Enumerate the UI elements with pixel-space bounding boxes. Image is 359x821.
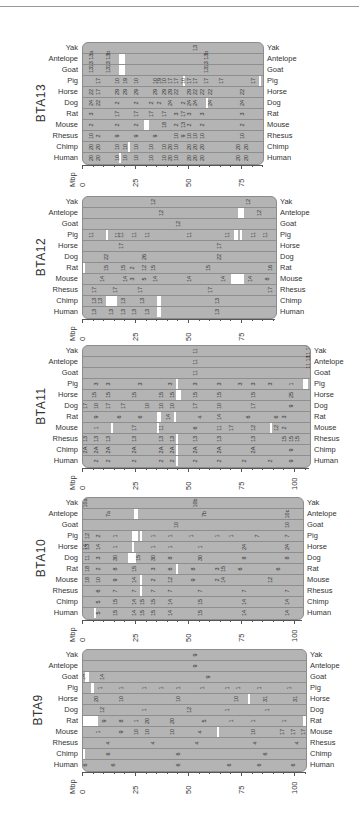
homolog-chromosome-label: 1	[222, 683, 232, 693]
homolog-chromosome-label: 1	[156, 683, 166, 693]
species-label-left: Rat	[0, 411, 78, 422]
homolog-chromosome-label: 17	[201, 76, 211, 86]
axis-tick	[262, 319, 263, 321]
homolog-chromosome-label: 1	[131, 716, 141, 726]
homolog-chromosome-label: 17	[129, 423, 139, 433]
homolog-chromosome-label: 15	[110, 608, 120, 618]
homolog-chromosome-label: 10	[93, 575, 103, 585]
axis-tick	[93, 468, 94, 470]
homolog-chromosome-label: 13	[137, 296, 147, 306]
homolog-chromosome-label: 6	[235, 564, 245, 574]
species-label-right: Horse	[310, 693, 330, 704]
homolog-chromosome-label: 15	[110, 597, 120, 607]
homolog-chromosome-label: 2	[167, 456, 177, 466]
axis-unit-label: Mbp	[68, 627, 77, 642]
homolog-chromosome-label: 13	[103, 65, 113, 75]
homolog-chromosome-label: 22	[205, 87, 215, 97]
homolog-chromosome-label: 31	[260, 694, 270, 704]
homolog-chromosome-label: 18	[82, 575, 92, 585]
species-label-right: Chimp	[314, 444, 336, 455]
homolog-chromosome-label: 1	[91, 423, 101, 433]
species-label-right: Dog	[310, 704, 324, 715]
axis-tick	[305, 772, 306, 774]
homolog-chromosome-label: 6	[103, 749, 113, 759]
species-label-left: Pig	[0, 75, 78, 86]
homolog-chromosome-label: 8	[188, 564, 198, 574]
homolog-chromosome-label: 15	[101, 263, 111, 273]
species-row: 7a7b10c	[83, 509, 303, 520]
gap-segment	[303, 379, 307, 389]
species-label-right: Yak	[310, 649, 322, 660]
homolog-chromosome-label: 3	[103, 379, 113, 389]
homolog-chromosome-label: 7	[165, 586, 175, 596]
axis-tick	[156, 620, 157, 622]
homolog-chromosome-label: 17	[103, 401, 113, 411]
axis-tick-label: 50	[184, 179, 193, 187]
homolog-chromosome-label: 8	[165, 553, 175, 563]
homolog-chromosome-label: 2	[148, 575, 158, 585]
axis-tick	[252, 620, 253, 622]
homolog-chromosome-label: 12	[82, 531, 92, 541]
homolog-chromosome-label: 13	[214, 434, 224, 444]
axis-tick	[177, 772, 178, 774]
species-label-left: Dog	[0, 251, 78, 262]
homolog-chromosome-label: 11 13	[303, 357, 311, 367]
homolog-chromosome-label: 13	[142, 307, 152, 317]
axis-tick	[241, 468, 242, 472]
axis-tick-label: 0	[78, 183, 87, 187]
axis-tick	[82, 772, 83, 776]
axis-unit-label: Mbp	[68, 475, 77, 490]
axis-tick	[167, 165, 168, 167]
species-label-left: Rat	[0, 563, 78, 574]
species-label-right: Dog	[314, 400, 328, 411]
homolog-chromosome-label: 29	[120, 87, 130, 97]
species-label-left: Yak	[0, 196, 78, 207]
species-label-right: Yak	[267, 42, 279, 53]
homolog-chromosome-label: 20	[197, 153, 207, 163]
axis-tick	[167, 319, 168, 321]
axis-tick	[220, 468, 221, 470]
axis-tick-label: 0	[78, 790, 87, 794]
chromosome-box: 9914149111111111120101010313112112119812…	[82, 649, 307, 772]
homolog-chromosome-label: 11	[190, 368, 200, 378]
gap-segment	[119, 54, 125, 64]
homolog-chromosome-label: 3	[265, 379, 275, 389]
axis-tick	[135, 468, 136, 472]
homolog-chromosome-label: 9	[286, 456, 296, 466]
homolog-chromosome-label: 2A	[156, 445, 166, 455]
homolog-chromosome-label: 15	[89, 390, 99, 400]
homolog-chromosome-label: 4	[195, 412, 205, 422]
gap-segment	[119, 65, 125, 75]
species-label-right: Antelope	[267, 53, 297, 64]
axis-tick	[124, 165, 125, 167]
axis-tick-label: 25	[131, 482, 140, 490]
homolog-chromosome-label: 6	[82, 760, 90, 770]
homolog-chromosome-label: 10	[248, 727, 258, 737]
homolog-chromosome-label: 10	[146, 142, 156, 152]
homolog-chromosome-label: 7	[239, 586, 249, 596]
species-row: 1810914212921412	[83, 575, 303, 586]
species-label-right: Dog	[267, 97, 281, 108]
species-row: 317171717317333	[83, 109, 263, 120]
species-label-left: Goat	[0, 671, 78, 682]
homolog-chromosome-label: 11	[214, 423, 224, 433]
gap-segment	[144, 120, 148, 130]
species-row: 117116111712122	[83, 423, 310, 434]
species-label-right: Human	[280, 306, 304, 317]
homolog-chromosome-label: 17	[118, 401, 128, 411]
homolog-chromosome-label: 17	[265, 285, 275, 295]
homolog-chromosome-label: 5	[199, 716, 209, 726]
homolog-chromosome-label: 14	[218, 274, 228, 284]
homolog-chromosome-label: 9	[110, 575, 120, 585]
homolog-chromosome-label: 2	[265, 456, 275, 466]
homolog-chromosome-label: 10	[231, 694, 241, 704]
homolog-chromosome-label: 1	[222, 705, 232, 715]
species-label-left: Horse	[0, 541, 78, 552]
axis-tick-label: 25	[131, 179, 140, 187]
gap-segment	[238, 208, 244, 218]
axis-tick	[188, 319, 189, 323]
species-label-right: Rat	[307, 563, 319, 574]
homolog-chromosome-label: 17	[205, 285, 215, 295]
homolog-chromosome-label: 8	[282, 553, 292, 563]
axis-tick-label: 0	[78, 638, 87, 642]
